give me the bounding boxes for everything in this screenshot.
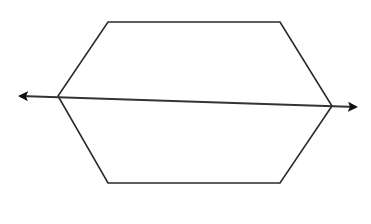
diagram-canvas — [0, 0, 371, 224]
double-headed-arrow — [20, 96, 356, 107]
